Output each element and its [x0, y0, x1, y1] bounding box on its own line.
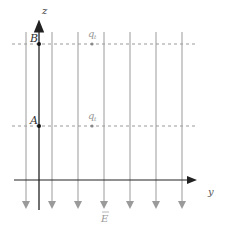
svg-text:t: t	[94, 33, 97, 40]
field-lines	[26, 32, 182, 205]
charge-label-top: q t	[88, 28, 97, 40]
z-axis-label: z	[41, 5, 48, 16]
point-b-label: B	[29, 32, 38, 45]
y-axis-label: y	[207, 186, 214, 197]
point-a-label: A	[29, 114, 38, 127]
charge-label-bottom: q t	[88, 110, 97, 122]
svg-text:t: t	[94, 115, 97, 122]
charge-dot	[90, 42, 93, 45]
charge-dot	[90, 124, 93, 127]
svg-text:E: E	[100, 213, 109, 224]
electric-field-diagram: z y B A q t q t E	[0, 0, 228, 232]
field-label: E	[100, 212, 109, 224]
